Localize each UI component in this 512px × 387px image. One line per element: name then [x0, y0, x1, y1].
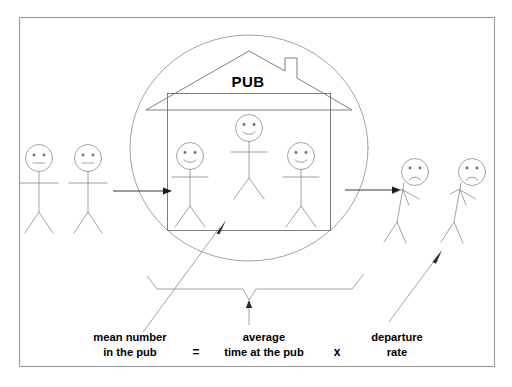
pub-occupant-1 — [172, 143, 208, 228]
occupant-legs — [175, 206, 205, 227]
customer-legs — [384, 222, 406, 243]
exit-flow-arrow — [345, 187, 401, 194]
customer-head — [459, 159, 486, 186]
occupant-head — [288, 143, 315, 170]
customer-eye-left — [82, 154, 85, 157]
occupant-head — [236, 115, 263, 142]
pub-occupant-3 — [283, 143, 319, 228]
departure-rate-label-line1: departure — [371, 331, 423, 343]
occupant-eye-left — [184, 151, 187, 154]
customer-eye-left — [409, 167, 412, 170]
customer-shoulder-line — [450, 189, 460, 194]
customer-frown — [466, 177, 478, 180]
customer-legs — [74, 212, 102, 233]
departing-customer-1 — [384, 159, 429, 244]
customer-arm-upper — [403, 190, 419, 199]
customer-arm-lower — [403, 190, 409, 205]
customer-eye-left — [33, 154, 36, 157]
customer-head — [402, 159, 429, 186]
occupant-eye-left — [243, 123, 246, 126]
average-time-label-line2: time at the pub — [224, 346, 304, 358]
departing-customer-2 — [441, 159, 486, 244]
entry-flow-arrow — [113, 188, 172, 195]
customer-legs — [25, 212, 53, 233]
customer-eye-right — [92, 154, 95, 157]
roof-right-slope-and-chimney — [249, 51, 352, 110]
occupant-smile — [243, 132, 255, 135]
occupant-legs — [234, 178, 264, 199]
occupant-eye-right — [305, 151, 308, 154]
customer-head — [75, 145, 102, 172]
mean-number-label-line2: in the pub — [103, 346, 157, 358]
littles-law-diagram: PUB — [0, 0, 512, 387]
customer-arm-upper — [460, 190, 476, 199]
occupant-legs — [286, 206, 316, 227]
equals-sign: = — [192, 345, 199, 359]
customer-eye-right — [476, 167, 479, 170]
customer-head — [26, 145, 53, 172]
customer-legs — [441, 222, 463, 243]
customer-eye-right — [419, 167, 422, 170]
customer-eye-left — [466, 167, 469, 170]
diagram-canvas: PUB — [0, 0, 512, 387]
arriving-customer-1 — [20, 145, 58, 234]
occupant-head — [177, 143, 204, 170]
mean-number-label-line1: mean number — [93, 331, 167, 343]
departure-rate-pointer — [389, 250, 442, 322]
departure-rate-label-line2: rate — [387, 346, 408, 358]
occupant-eye-right — [194, 151, 197, 154]
occupant-eye-right — [253, 123, 256, 126]
average-time-label-line1: average — [243, 331, 285, 343]
occupant-eye-left — [295, 151, 298, 154]
customer-arm-lower — [460, 190, 466, 205]
pub-occupant-2 — [231, 115, 267, 200]
customer-frown — [409, 177, 421, 180]
occupant-smile — [184, 160, 196, 163]
figure-border — [20, 18, 495, 367]
occupant-smile — [295, 160, 307, 163]
pub-sign-label: PUB — [232, 73, 265, 90]
mean-number-pointer — [143, 220, 226, 332]
customer-eye-right — [43, 154, 46, 157]
arriving-customer-2 — [69, 145, 107, 234]
times-sign: x — [334, 345, 341, 359]
